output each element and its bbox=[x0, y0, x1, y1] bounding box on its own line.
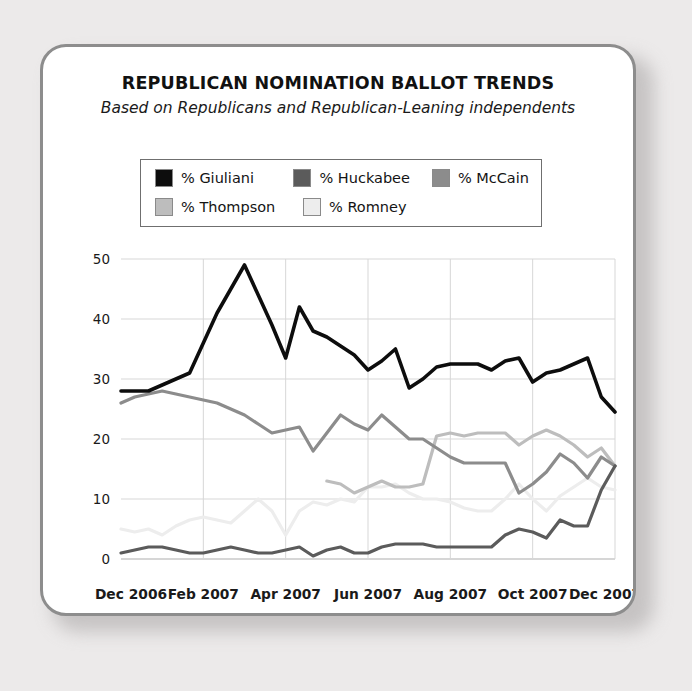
chart-title: REPUBLICAN NOMINATION BALLOT TRENDS bbox=[43, 73, 633, 93]
legend-row: % Thompson % Romney bbox=[155, 198, 529, 216]
line-chart: 01020304050Dec 2006Feb 2007Apr 2007Jun 2… bbox=[43, 243, 633, 615]
legend-item-thompson[interactable]: % Thompson bbox=[155, 198, 303, 216]
y-axis-tick-label: 40 bbox=[93, 311, 110, 327]
x-axis-tick-label: Jun 2007 bbox=[333, 586, 402, 602]
chart-card: REPUBLICAN NOMINATION BALLOT TRENDS Base… bbox=[40, 44, 636, 616]
legend-label-mccain: % McCain bbox=[458, 170, 529, 186]
x-axis-tick-label: Dec 2006 bbox=[95, 586, 167, 602]
legend-label-romney: % Romney bbox=[329, 199, 407, 215]
legend-row: % Giuliani % Huckabee % McCain bbox=[155, 169, 529, 187]
plot-area: 01020304050Dec 2006Feb 2007Apr 2007Jun 2… bbox=[43, 243, 633, 615]
legend-swatch-romney bbox=[303, 198, 321, 216]
legend-item-mccain[interactable]: % McCain bbox=[432, 169, 529, 187]
legend-label-huckabee: % Huckabee bbox=[319, 170, 410, 186]
x-axis-tick-label: Apr 2007 bbox=[250, 586, 321, 602]
chart-page: REPUBLICAN NOMINATION BALLOT TRENDS Base… bbox=[0, 0, 692, 691]
chart-subtitle: Based on Republicans and Republican-Lean… bbox=[43, 99, 633, 117]
x-axis-tick-label: Feb 2007 bbox=[168, 586, 239, 602]
y-axis-tick-label: 10 bbox=[93, 491, 110, 507]
x-axis-tick-label: Dec 2007 bbox=[569, 586, 633, 602]
legend-swatch-mccain bbox=[432, 169, 450, 187]
legend-swatch-giuliani bbox=[155, 169, 173, 187]
legend-swatch-thompson bbox=[155, 198, 173, 216]
chart-legend: % Giuliani % Huckabee % McCain % Thompso… bbox=[140, 159, 542, 227]
legend-item-romney[interactable]: % Romney bbox=[303, 198, 451, 216]
y-axis-tick-label: 50 bbox=[93, 251, 110, 267]
legend-swatch-huckabee bbox=[293, 169, 311, 187]
y-axis-tick-label: 30 bbox=[93, 371, 110, 387]
legend-label-thompson: % Thompson bbox=[181, 199, 275, 215]
legend-label-giuliani: % Giuliani bbox=[181, 170, 254, 186]
legend-item-huckabee[interactable]: % Huckabee bbox=[293, 169, 431, 187]
x-axis-tick-label: Aug 2007 bbox=[414, 586, 488, 602]
y-axis-tick-label: 0 bbox=[101, 551, 110, 567]
y-axis-tick-label: 20 bbox=[93, 431, 110, 447]
legend-item-giuliani[interactable]: % Giuliani bbox=[155, 169, 293, 187]
x-axis-tick-label: Oct 2007 bbox=[498, 586, 568, 602]
